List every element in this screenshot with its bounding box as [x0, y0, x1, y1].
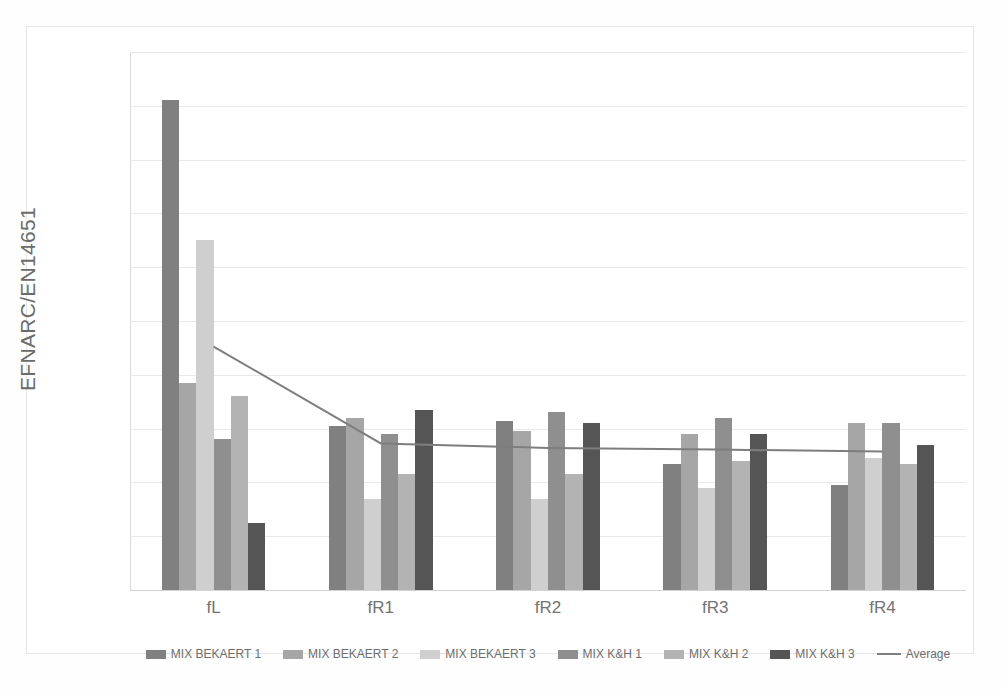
bar — [750, 434, 767, 590]
bar — [663, 464, 680, 590]
bar — [179, 383, 196, 590]
bar — [917, 445, 934, 590]
legend-item[interactable]: Average — [877, 648, 950, 660]
legend-color-swatch — [664, 650, 684, 659]
bar — [162, 100, 179, 590]
bar — [248, 523, 265, 590]
bar — [513, 431, 530, 590]
gridline — [130, 213, 966, 214]
gridline — [130, 321, 966, 322]
legend-label: MIX K&H 3 — [795, 648, 854, 660]
x-axis-tick-label: fR4 — [802, 598, 962, 618]
bar — [196, 240, 213, 590]
bar — [848, 423, 865, 590]
bar — [565, 474, 582, 590]
bar — [900, 464, 917, 590]
legend-item[interactable]: MIX BEKAERT 1 — [146, 648, 261, 660]
legend-color-swatch — [283, 650, 303, 659]
gridline — [130, 375, 966, 376]
x-axis-tick-label: fR3 — [635, 598, 795, 618]
bar — [698, 488, 715, 590]
bar — [715, 418, 732, 590]
legend-color-swatch — [420, 650, 440, 659]
bar — [732, 461, 749, 590]
legend-line-marker — [877, 653, 901, 655]
bar — [882, 423, 899, 590]
gridline — [130, 52, 966, 53]
legend-label: Average — [906, 648, 950, 660]
bar — [381, 434, 398, 590]
x-axis-tick-label: fR1 — [301, 598, 461, 618]
bar — [681, 434, 698, 590]
bar — [398, 474, 415, 590]
chart-legend: MIX BEKAERT 1MIX BEKAERT 2MIX BEKAERT 3M… — [130, 648, 966, 660]
bar — [548, 412, 565, 590]
gridline — [130, 160, 966, 161]
bar — [415, 410, 432, 590]
x-axis-line — [130, 590, 966, 591]
bar — [346, 418, 363, 590]
legend-label: MIX BEKAERT 1 — [171, 648, 261, 660]
bar — [329, 426, 346, 590]
gridline — [130, 106, 966, 107]
bar — [531, 499, 548, 590]
legend-item[interactable]: MIX K&H 1 — [558, 648, 642, 660]
y-axis-title: EFNARC/EN14651 — [16, 139, 40, 459]
legend-item[interactable]: MIX K&H 3 — [770, 648, 854, 660]
legend-label: MIX K&H 1 — [583, 648, 642, 660]
legend-color-swatch — [770, 650, 790, 659]
plot-area: 00.20.40.60.811.21.41.61.82 fLfR1fR2fR3f… — [130, 52, 966, 590]
bar — [583, 423, 600, 590]
bar — [364, 499, 381, 590]
bar — [231, 396, 248, 590]
gridline — [130, 267, 966, 268]
legend-label: MIX K&H 2 — [689, 648, 748, 660]
bar — [214, 439, 231, 590]
x-axis-tick-label: fR2 — [468, 598, 628, 618]
legend-color-swatch — [146, 650, 166, 659]
chart-container: EFNARC/EN14651 00.20.40.60.811.21.41.61.… — [0, 0, 1005, 690]
bar — [865, 458, 882, 590]
legend-label: MIX BEKAERT 2 — [308, 648, 398, 660]
legend-label: MIX BEKAERT 3 — [445, 648, 535, 660]
bar — [831, 485, 848, 590]
legend-item[interactable]: MIX K&H 2 — [664, 648, 748, 660]
legend-item[interactable]: MIX BEKAERT 2 — [283, 648, 398, 660]
bar — [496, 421, 513, 590]
x-axis-tick-label: fL — [134, 598, 294, 618]
legend-color-swatch — [558, 650, 578, 659]
legend-item[interactable]: MIX BEKAERT 3 — [420, 648, 535, 660]
